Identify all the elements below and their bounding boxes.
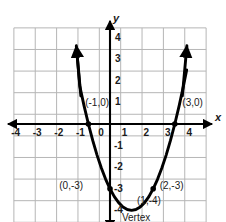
y-tick-label-neg1: -1 xyxy=(114,141,123,151)
point-marker xyxy=(150,186,156,192)
y-tick-label-neg3: -3 xyxy=(114,184,123,194)
x-tick-label-4: 4 xyxy=(187,128,193,138)
point-label-1neg4: (1,-4) xyxy=(137,196,161,206)
axes xyxy=(8,21,212,222)
y-tick-label-1: 1 xyxy=(115,97,121,107)
y-tick-label-4: 4 xyxy=(115,33,121,43)
x-tick-label-3: 3 xyxy=(165,128,171,138)
annotation-vertex: Vertex xyxy=(122,213,150,222)
point-label-0neg3: (0,-3) xyxy=(59,181,83,191)
point-marker xyxy=(86,121,92,127)
x-tick-label--1: -1 xyxy=(76,128,85,138)
x-tick-label-2: 2 xyxy=(143,128,149,138)
x-tick-label-0: 0 xyxy=(98,128,104,138)
x-axis-label: x xyxy=(215,112,221,123)
coordinate-plane-svg xyxy=(0,0,226,222)
y-tick-label-2: 2 xyxy=(115,76,121,86)
x-tick-label--2: -2 xyxy=(54,128,63,138)
point-label-neg10: (-1,0) xyxy=(85,98,109,108)
point-label-2neg3: (2,-3) xyxy=(160,181,184,191)
point-marker xyxy=(107,186,113,192)
y-tick-label-neg2: -2 xyxy=(114,162,123,172)
x-tick-label--3: -3 xyxy=(33,128,42,138)
x-tick-label--4: -4 xyxy=(11,128,20,138)
point-label-30: (3,0) xyxy=(182,98,203,108)
y-axis-label: y xyxy=(113,13,119,24)
x-tick-label-1: 1 xyxy=(122,128,128,138)
graph-figure: -4-3-2-101234-4-3-2-11234xy(-1,0)(3,0)(0… xyxy=(0,0,226,222)
y-tick-label-3: 3 xyxy=(115,54,121,64)
point-marker xyxy=(172,121,178,127)
